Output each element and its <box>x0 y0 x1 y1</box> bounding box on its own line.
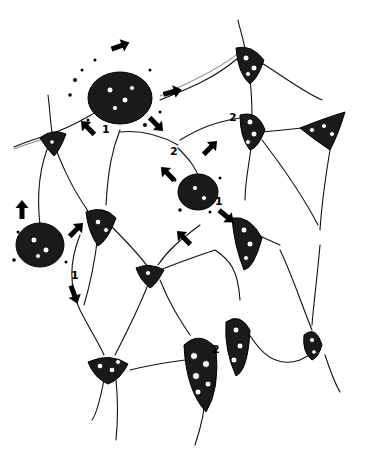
arrow-icon <box>172 226 195 249</box>
cell-aggregate-left <box>12 223 67 267</box>
arrow-icon <box>145 113 168 136</box>
cell-node-right-mid <box>232 218 262 270</box>
label-2-bottom: 2 <box>212 344 220 355</box>
cell-network-illustration: 122112 <box>0 0 368 471</box>
arrow-icon <box>65 218 88 241</box>
label-1-center: 1 <box>215 196 223 207</box>
cell-network-drawing <box>0 0 368 471</box>
cell-node-top-right <box>236 47 264 84</box>
label-1-top: 1 <box>102 124 110 135</box>
arrow-icon <box>109 36 131 55</box>
arrow-icon <box>199 136 222 159</box>
cell-node-bottom-right <box>304 332 322 360</box>
cell-node-far-right <box>300 112 345 150</box>
cell-aggregate-top <box>68 59 161 128</box>
cell-node-lower-left <box>88 357 128 384</box>
cell-node-mid-left <box>86 210 116 246</box>
cell-node-left-top <box>40 132 66 156</box>
label-2-upper-right: 2 <box>229 112 237 123</box>
arrow-icon <box>16 200 29 219</box>
cell-node-center-right <box>240 114 265 150</box>
arrow-icon <box>65 283 84 305</box>
arrow-icon <box>156 162 179 185</box>
label-2-center: 2 <box>170 146 178 157</box>
cell-node-bottom-mid <box>226 318 250 376</box>
network-strands <box>14 20 340 445</box>
label-1-left: 1 <box>71 270 79 281</box>
cell-node-center-low <box>136 265 164 288</box>
